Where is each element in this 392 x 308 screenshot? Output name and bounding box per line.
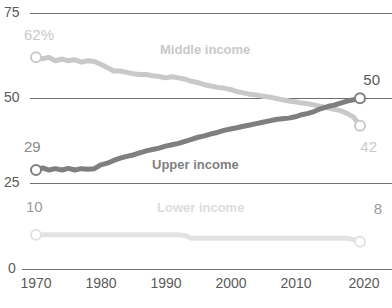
value-label-middle-start: 62% bbox=[24, 26, 54, 43]
x-tick-1990: 1990 bbox=[150, 275, 181, 291]
series-label-middle-income: Middle income bbox=[160, 42, 250, 57]
value-label-upper-end: 50 bbox=[363, 71, 380, 88]
x-tick-2000: 2000 bbox=[215, 275, 246, 291]
income-tier-line-chart: 75 50 25 0 1970 1980 1990 2000 2010 2020 bbox=[0, 0, 392, 308]
endpoint-end-middle-income bbox=[355, 121, 365, 131]
x-tick-2010: 2010 bbox=[280, 275, 311, 291]
value-label-upper-start: 29 bbox=[24, 138, 41, 155]
endpoint-start-middle-income bbox=[31, 52, 41, 62]
endpoint-end-lower-income bbox=[355, 237, 365, 247]
chart-svg: 75 50 25 0 1970 1980 1990 2000 2010 2020 bbox=[0, 0, 392, 308]
y-axis-ticks: 75 50 25 0 bbox=[4, 4, 20, 276]
x-tick-1970: 1970 bbox=[20, 275, 51, 291]
endpoint-start-upper-income bbox=[31, 165, 41, 175]
endpoint-start-lower-income bbox=[31, 230, 41, 240]
x-tick-1980: 1980 bbox=[85, 275, 116, 291]
series-label-lower-income: Lower income bbox=[157, 200, 244, 215]
y-tick-50: 50 bbox=[4, 89, 20, 105]
value-label-lower-start: 10 bbox=[26, 198, 43, 215]
series-line-middle-income bbox=[36, 57, 360, 125]
endpoint-end-upper-income bbox=[355, 93, 365, 103]
y-tick-0: 0 bbox=[8, 260, 16, 276]
value-label-middle-end: 42 bbox=[360, 138, 377, 155]
series-label-upper-income: Upper income bbox=[152, 157, 239, 172]
x-tick-2020: 2020 bbox=[348, 275, 379, 291]
series-line-lower-income bbox=[36, 235, 360, 242]
x-axis-ticks: 1970 1980 1990 2000 2010 2020 bbox=[20, 275, 379, 291]
y-tick-75: 75 bbox=[4, 4, 20, 20]
value-label-lower-end: 8 bbox=[374, 200, 382, 217]
y-tick-25: 25 bbox=[4, 174, 20, 190]
